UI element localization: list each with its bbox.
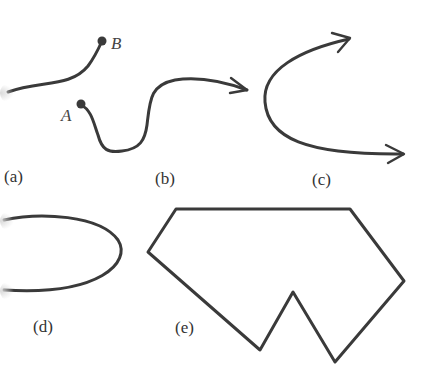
point-a-dot xyxy=(77,100,86,109)
panel-label-e: (e) xyxy=(175,318,194,338)
panel-label-b: (b) xyxy=(155,169,175,189)
panel-label-d: (d) xyxy=(33,317,53,337)
point-b-label: B xyxy=(111,34,121,54)
edge-shadow-d2 xyxy=(0,282,14,300)
polygon-e xyxy=(148,209,404,362)
curve-c xyxy=(265,39,403,154)
oval-d xyxy=(4,216,121,291)
point-a-label: A xyxy=(61,106,71,126)
point-b-dot xyxy=(98,37,107,46)
figure-canvas xyxy=(0,0,432,376)
curve-b xyxy=(81,79,247,152)
edge-shadow-a xyxy=(0,84,14,102)
curve-a xyxy=(8,41,102,92)
panel-label-a: (a) xyxy=(4,167,23,187)
panel-label-c: (c) xyxy=(312,170,331,190)
edge-shadow-d1 xyxy=(0,212,14,230)
